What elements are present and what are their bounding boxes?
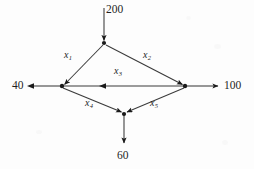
node-left — [60, 84, 64, 88]
edge-label-x3-base: x — [114, 65, 118, 76]
arrow-demand-40 — [27, 83, 61, 89]
demand-label-40: 40 — [12, 80, 24, 92]
edge-label-x1-base: x — [64, 49, 68, 60]
edge-label-x2-subscript: 2 — [148, 54, 151, 61]
edge-label-x5-subscript: 5 — [155, 102, 158, 109]
arrow-edge-x3 — [64, 83, 183, 89]
flow-diagram-canvas: 200 40 100 60 x1 x2 x3 x4 x5 — [0, 0, 254, 169]
demand-label-60: 60 — [117, 150, 129, 162]
edge-label-x5-base: x — [150, 97, 154, 108]
supply-label-200: 200 — [106, 4, 123, 16]
node-right — [183, 84, 187, 88]
edge-label-x2-base: x — [143, 49, 147, 60]
edge-label-x4-subscript: 4 — [90, 102, 93, 109]
edge-label-x4-base: x — [85, 97, 89, 108]
edge-label-x1-subscript: 1 — [69, 54, 72, 61]
edge-label-x3-subscript: 3 — [119, 70, 122, 77]
node-top — [102, 41, 106, 45]
flow-network-graphic — [0, 0, 254, 169]
edge-label-x3: x3 — [114, 66, 122, 76]
demand-label-100: 100 — [224, 80, 241, 92]
edge-label-x4: x4 — [85, 98, 93, 108]
edge-label-x1: x1 — [64, 50, 72, 60]
edge-label-x2: x2 — [143, 50, 151, 60]
node-bottom — [122, 112, 126, 116]
edge-label-x5: x5 — [150, 98, 158, 108]
